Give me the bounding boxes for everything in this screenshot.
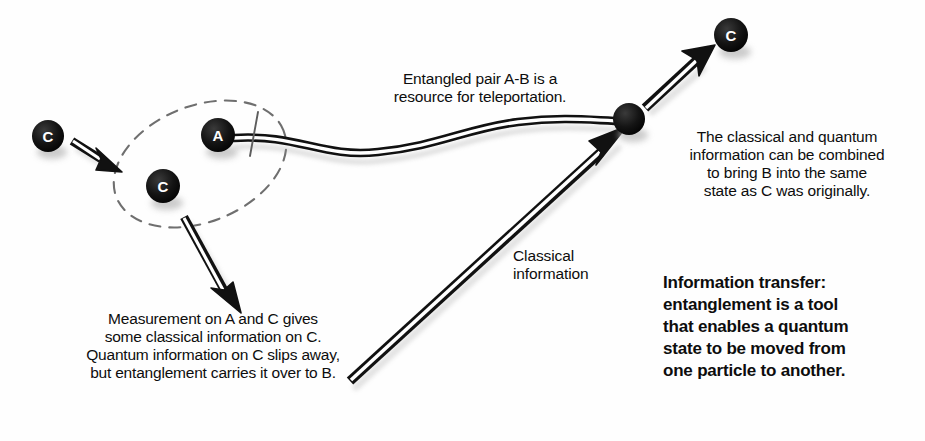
b-becomes-c-arrow — [645, 45, 715, 108]
caption-summary: Information transfer: entanglement is a … — [663, 272, 921, 382]
particle-c-source[interactable] — [32, 120, 67, 159]
particle-a-entangled[interactable] — [201, 118, 238, 159]
measurement-outcome-arrow — [184, 217, 241, 313]
caption-classical-information: Classical information — [513, 247, 633, 283]
particle-c-destination[interactable] — [714, 18, 751, 59]
caption-combined-information: The classical and quantum information ca… — [655, 128, 919, 200]
caption-entangled-pair: Entangled pair A-B is a resource for tel… — [355, 70, 605, 106]
particle-c-measured[interactable] — [146, 169, 183, 210]
caption-measurement: Measurement on A and C gives some classi… — [33, 310, 393, 382]
diagram-canvas: C A C C Entangled pair A-B is a resource… — [0, 0, 925, 441]
c-into-group-arrow — [72, 141, 122, 172]
particle-b-entangled[interactable] — [613, 103, 648, 142]
measurement-region-ellipse — [95, 77, 305, 252]
